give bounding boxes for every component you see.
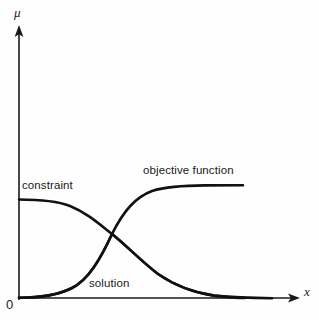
y-axis-label: μ xyxy=(14,6,21,19)
curve-label-solution: solution xyxy=(89,277,129,290)
figure-canvas: μ x 0 constraint objective function solu… xyxy=(0,0,319,320)
curve-label-constraint: constraint xyxy=(22,179,73,192)
curve-label-objective-function: objective function xyxy=(143,164,234,177)
curve-constraint xyxy=(19,200,272,299)
x-axis-label: x xyxy=(304,285,310,298)
plot-area xyxy=(0,0,319,320)
origin-label: 0 xyxy=(6,298,13,311)
curve-solution xyxy=(19,234,245,298)
